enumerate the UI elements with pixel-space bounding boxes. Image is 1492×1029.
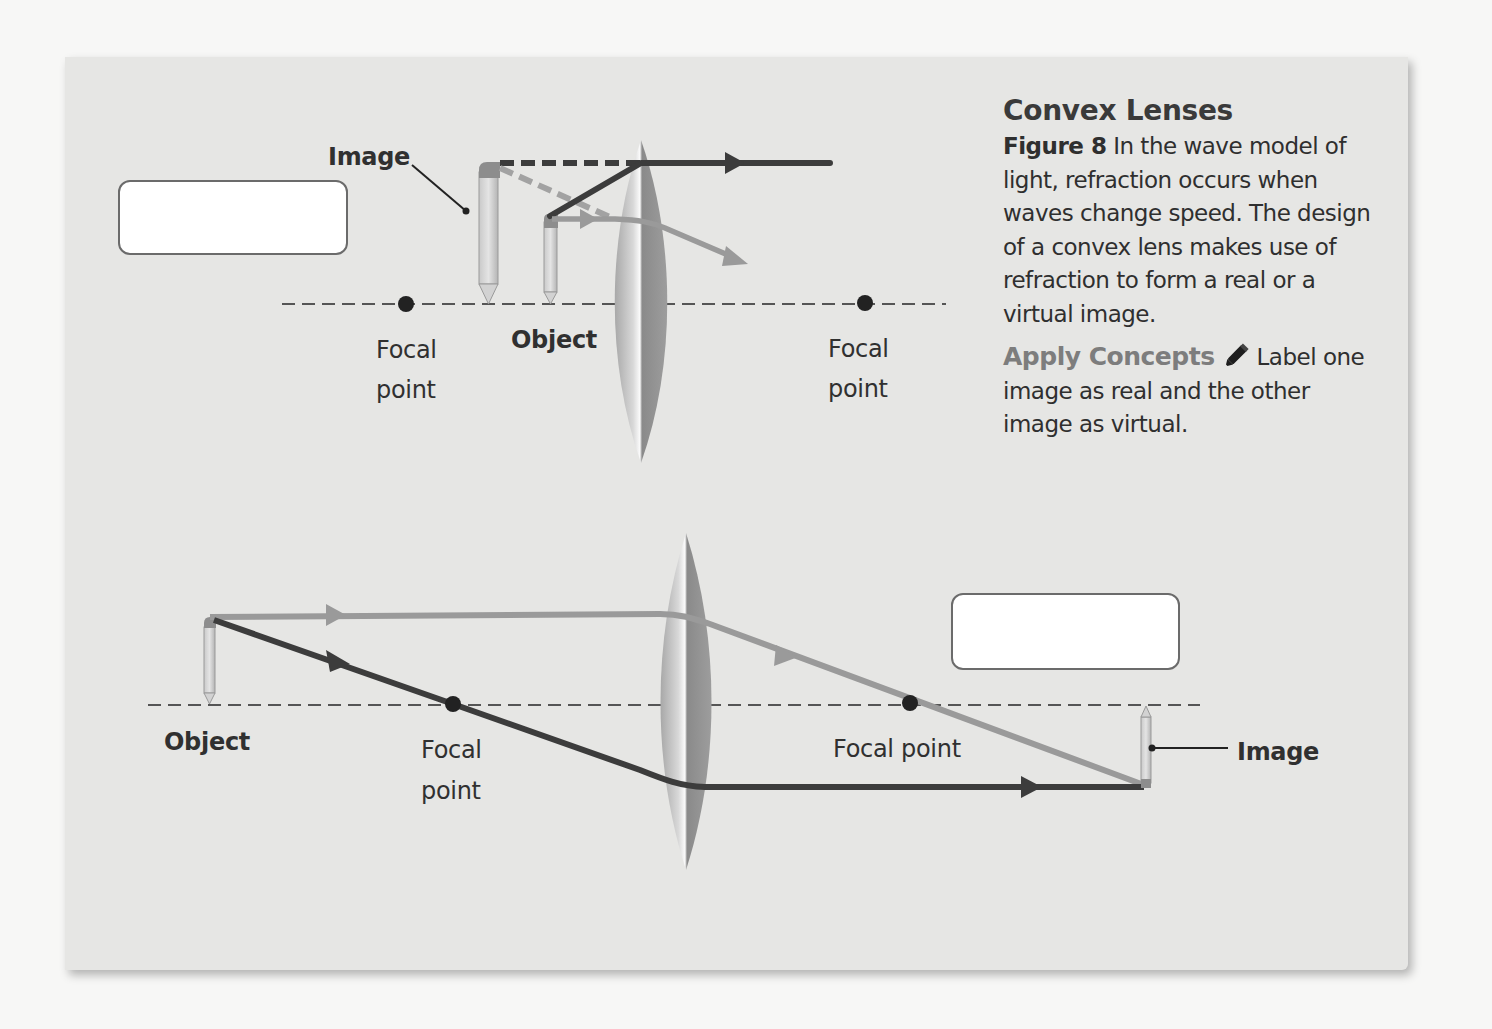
focal-point-dot-left xyxy=(445,696,461,712)
label-focal-left-top: Focal xyxy=(376,330,437,370)
arrowhead-dark-2 xyxy=(1021,776,1042,798)
label-focal-right-bottom: Focal point xyxy=(833,729,961,769)
bottom-diagram xyxy=(148,533,1228,870)
focal-point-dot-left xyxy=(398,296,414,312)
arrowhead-light-1 xyxy=(580,209,598,229)
figure-label: Figure 8 xyxy=(1003,133,1106,159)
object-pencil-icon xyxy=(204,617,216,704)
label-focal-left-bottom: Focal xyxy=(421,730,482,770)
convex-lens xyxy=(615,140,668,463)
label-image-top: Image xyxy=(328,137,410,177)
label-point-left-bottom: point xyxy=(421,771,481,811)
arrowhead-light-1 xyxy=(326,604,346,626)
focal-point-dot-right xyxy=(902,695,918,711)
leader-dot xyxy=(1149,745,1156,752)
image-leader-line xyxy=(412,165,466,211)
answer-box-top[interactable] xyxy=(118,180,348,255)
figure-text: In the wave model of light, refraction o… xyxy=(1003,133,1370,327)
caption-body: Figure 8 In the wave model of light, ref… xyxy=(1003,130,1383,331)
label-object-bottom: Object xyxy=(164,722,250,762)
image-pencil-icon xyxy=(479,162,500,304)
marker-icon xyxy=(1221,339,1255,369)
leader-dot xyxy=(463,208,470,215)
arrowhead-light-2 xyxy=(774,645,798,666)
object-pencil-icon xyxy=(544,214,558,304)
focal-point-dot-right xyxy=(857,295,873,311)
caption-title: Convex Lenses xyxy=(1003,92,1383,130)
figure-caption: Convex Lenses Figure 8 In the wave model… xyxy=(1003,92,1383,442)
label-object-top: Object xyxy=(511,320,597,360)
ray-dark xyxy=(550,163,830,216)
arrowhead-dark xyxy=(725,152,745,174)
convex-lens xyxy=(661,533,712,870)
apply-concepts-label: Apply Concepts xyxy=(1003,342,1215,371)
label-point-right-top: point xyxy=(828,369,888,409)
apply-concepts: Apply ConceptsLabel one image as real an… xyxy=(1003,339,1383,442)
top-diagram xyxy=(282,140,946,463)
label-point-left-top: point xyxy=(376,370,436,410)
arrowhead-light-2 xyxy=(722,246,748,266)
label-image-bottom: Image xyxy=(1237,732,1319,772)
answer-box-bottom[interactable] xyxy=(951,593,1180,670)
label-focal-right-top: Focal xyxy=(828,329,889,369)
